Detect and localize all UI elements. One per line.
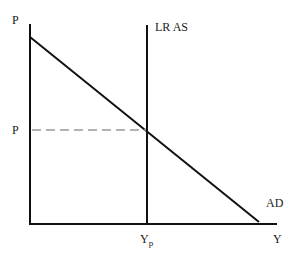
ad-lras-diagram: P P LR AS AD Y Yp [0,0,298,257]
lras-label: LR AS [155,20,188,34]
ad-label: AD [266,196,284,210]
potential-output-main: Y [140,232,149,246]
y-axis-label: P [12,13,19,27]
price-level-label: P [12,123,19,137]
potential-output-subscript: p [149,238,154,248]
potential-output-label: Yp [140,232,154,248]
x-axis-label: Y [273,232,282,246]
